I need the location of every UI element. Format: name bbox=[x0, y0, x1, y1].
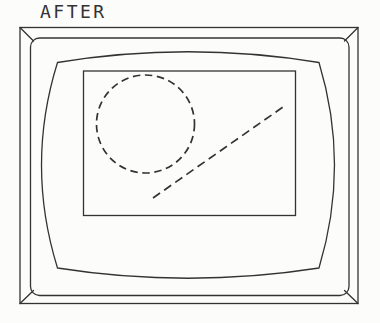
case-corner-bevel-bottom-left bbox=[20, 291, 34, 304]
monitor-outer-case bbox=[20, 28, 358, 304]
monitor-bezel bbox=[31, 38, 350, 296]
figure-canvas: AFTER bbox=[0, 0, 380, 323]
screen-display-area bbox=[84, 71, 296, 216]
case-corner-bevel-top-right bbox=[345, 28, 359, 42]
case-corner-bevel-top-left bbox=[20, 28, 34, 42]
dashed-circle-shape bbox=[97, 75, 195, 173]
dashed-diagonal-line-shape bbox=[153, 107, 283, 198]
monitor-illustration bbox=[0, 0, 380, 323]
crt-screen-face bbox=[42, 52, 335, 279]
